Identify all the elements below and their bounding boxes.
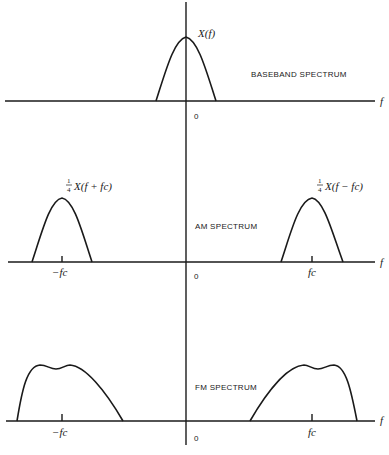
am-right-scale-den: 4 (318, 186, 322, 194)
baseband-origin-label: 0 (194, 112, 199, 121)
am-panel: f 0 1 4 X(f + fc) −fc 1 4 X(f − fc) fc A… (8, 177, 385, 281)
fm-panel: f 0 −fc fc FM SPECTRUM (6, 365, 385, 443)
am-title: AM SPECTRUM (195, 222, 257, 231)
am-left-lobe-curve (32, 198, 92, 262)
am-right-lobe-curve (281, 198, 343, 262)
fm-left-lobe-curve (17, 365, 123, 421)
baseband-title: BASEBAND SPECTRUM (251, 70, 347, 79)
am-right-scale-num: 1 (318, 177, 322, 185)
am-left-curve-label: X(f + fc) (73, 180, 112, 193)
fm-right-lobe-curve (250, 365, 357, 421)
baseband-curve-label: X(f) (197, 27, 215, 40)
baseband-f-label: f (380, 95, 385, 107)
am-left-scale-num: 1 (67, 177, 71, 185)
fm-f-label: f (380, 414, 385, 426)
fm-neg-fc-label: −fc (52, 426, 67, 438)
am-right-curve-label: X(f − fc) (324, 180, 363, 193)
am-origin-label: 0 (194, 272, 199, 281)
am-left-scale-den: 4 (67, 186, 71, 194)
am-neg-fc-label: −fc (52, 266, 67, 278)
spectrum-diagram: f 0 X(f) BASEBAND SPECTRUM f 0 1 4 X(f +… (0, 0, 389, 455)
baseband-panel: f 0 X(f) BASEBAND SPECTRUM (5, 27, 385, 121)
am-f-label: f (380, 256, 385, 268)
fm-pos-fc-label: fc (308, 426, 316, 438)
fm-title: FM SPECTRUM (195, 383, 257, 392)
am-pos-fc-label: fc (308, 266, 316, 278)
fm-origin-label: 0 (194, 434, 199, 443)
